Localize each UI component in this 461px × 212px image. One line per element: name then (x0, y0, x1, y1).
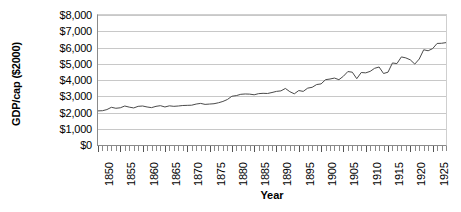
plot-area (97, 14, 447, 146)
x-tick (285, 146, 286, 151)
x-tick (245, 146, 246, 151)
x-tick (375, 146, 376, 151)
x-tick (160, 146, 161, 151)
x-tick (290, 146, 291, 151)
x-tick-label: 1890 (281, 162, 293, 186)
x-tick (134, 146, 135, 151)
y-tick-label: $3,000 (26, 90, 92, 102)
x-tick (348, 146, 349, 151)
x-tick (339, 146, 340, 151)
x-tick (201, 146, 202, 151)
x-tick (384, 146, 385, 151)
x-tick (227, 146, 228, 151)
x-tick-label: 1910 (371, 162, 383, 186)
y-tick-label: $0 (26, 139, 92, 151)
x-tick-label: 1855 (125, 162, 137, 186)
x-tick (196, 146, 197, 151)
x-tick (116, 146, 117, 151)
x-tick (102, 146, 103, 151)
x-tick (317, 146, 318, 151)
x-tick (370, 146, 371, 151)
series-line-gdp-per-capita (98, 15, 446, 145)
x-tick-label: 1895 (304, 162, 316, 186)
x-tick (205, 146, 206, 151)
x-tick-label: 1870 (192, 162, 204, 186)
x-tick (352, 146, 353, 151)
x-tick (303, 146, 304, 151)
x-tick-label: 1875 (215, 162, 227, 186)
x-tick (223, 146, 224, 151)
gdp-per-capita-chart: GDP/cap ($2000) $0$1,000$2,000$3,000$4,0… (0, 0, 461, 212)
y-tick-label: $1,000 (26, 123, 92, 135)
x-tick (357, 146, 358, 151)
x-tick (169, 146, 170, 151)
y-tick-label: $5,000 (26, 58, 92, 70)
x-tick (446, 146, 447, 151)
x-tick (281, 146, 282, 151)
x-tick (392, 146, 393, 151)
x-tick (107, 146, 108, 151)
x-tick (334, 146, 335, 151)
x-tick (272, 146, 273, 151)
x-tick-label: 1925 (438, 162, 450, 186)
x-tick (111, 146, 112, 151)
x-tick (379, 146, 380, 151)
x-tick (419, 146, 420, 151)
x-tick-label: 1865 (170, 162, 182, 186)
x-tick (152, 146, 153, 151)
x-tick-label: 1885 (259, 162, 271, 186)
x-tick (174, 146, 175, 151)
x-tick (294, 146, 295, 151)
x-tick (138, 146, 139, 151)
x-tick (361, 146, 362, 151)
x-tick-label: 1850 (103, 162, 115, 186)
x-tick (424, 146, 425, 151)
x-tick (259, 146, 260, 151)
x-tick (241, 146, 242, 151)
x-axis-title: Year (97, 189, 447, 201)
y-tick-label: $6,000 (26, 42, 92, 54)
y-tick-label: $4,000 (26, 74, 92, 86)
x-tick (250, 146, 251, 151)
x-tick (183, 146, 184, 151)
x-tick (214, 146, 215, 151)
y-axis-tick-labels: $0$1,000$2,000$3,000$4,000$5,000$6,000$7… (26, 0, 92, 212)
x-tick (156, 146, 157, 151)
x-tick (125, 146, 126, 151)
x-tick (147, 146, 148, 151)
x-tick (415, 146, 416, 151)
x-tick-label: 1900 (326, 162, 338, 186)
x-tick (428, 146, 429, 151)
x-tick (218, 146, 219, 151)
x-tick (406, 146, 407, 151)
x-tick-label: 1905 (348, 162, 360, 186)
x-tick (437, 146, 438, 151)
x-tick (442, 146, 443, 151)
y-tick-label: $2,000 (26, 107, 92, 119)
x-tick (312, 146, 313, 151)
x-tick-label: 1860 (148, 162, 160, 186)
x-tick (308, 146, 309, 151)
x-tick (129, 146, 130, 151)
x-tick (192, 146, 193, 151)
y-axis-title: GDP/cap ($2000) (10, 14, 22, 154)
x-tick-label: 1915 (393, 162, 405, 186)
x-tick-label: 1920 (415, 162, 427, 186)
x-tick (236, 146, 237, 151)
x-tick-label: 1880 (237, 162, 249, 186)
x-tick (326, 146, 327, 151)
x-tick (330, 146, 331, 151)
x-tick (178, 146, 179, 151)
x-tick (397, 146, 398, 151)
x-tick (401, 146, 402, 151)
x-axis-tick-labels: 1850185518601865187018751880188518901895… (97, 152, 447, 186)
x-tick (268, 146, 269, 151)
y-tick-label: $8,000 (26, 9, 92, 21)
x-tick (263, 146, 264, 151)
y-tick-label: $7,000 (26, 25, 92, 37)
